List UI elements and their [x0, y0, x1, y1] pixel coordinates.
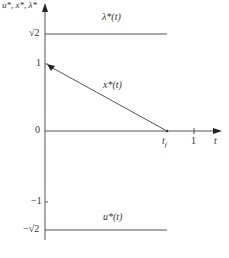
- y-tick-label-neg-sqrt2: −√2: [23, 223, 39, 234]
- x-axis-arrow-icon: [213, 128, 222, 134]
- y-tick-label-sqrt2: √2: [29, 27, 40, 38]
- y-tick-label-0: 0: [35, 124, 40, 135]
- x-axis-label: t: [214, 135, 217, 146]
- x-label: x*(t): [103, 79, 122, 90]
- y-axis-arrow-icon: [42, 3, 48, 12]
- y-tick-label-neg1: −1: [31, 195, 42, 206]
- x-tick-label-tf: tf: [162, 135, 167, 149]
- u-label: u*(t): [103, 211, 122, 222]
- series-x-arrow-icon: [47, 64, 55, 71]
- tf-sub: f: [165, 141, 167, 149]
- x-tick-label-1: 1: [191, 135, 196, 146]
- lambda-label: λ*(t): [102, 11, 121, 22]
- y-axis-label: u*, x*, λ*: [2, 0, 37, 10]
- series-x: [49, 66, 167, 131]
- y-tick-label-1: 1: [36, 57, 41, 68]
